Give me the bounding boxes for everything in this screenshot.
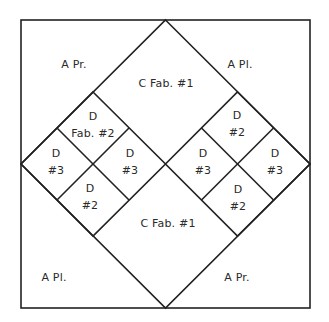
label-d-letter: D xyxy=(229,107,246,124)
label-d-letter: D xyxy=(267,145,284,162)
label-d-right-bottom: D #2 xyxy=(230,181,247,215)
label-d-letter: D xyxy=(230,181,247,198)
label-d-letter: D xyxy=(48,145,65,162)
label-d-right-left: D #3 xyxy=(195,145,212,179)
label-d-left-bottom: D #2 xyxy=(82,180,99,214)
label-a-top-right: A Pl. xyxy=(227,59,252,70)
label-d-letter: D xyxy=(122,145,139,162)
label-d-left-top: D Fab. #2 xyxy=(71,108,115,142)
label-d-code: #3 xyxy=(267,162,284,179)
label-d-code: #2 xyxy=(230,198,247,215)
label-d-left-right: D #3 xyxy=(122,145,139,179)
label-c-top: C Fab. #1 xyxy=(138,78,193,89)
label-d-code: #2 xyxy=(229,124,246,141)
label-a-bottom-left: A Pl. xyxy=(41,272,66,283)
label-a-bottom-right: A Pr. xyxy=(224,272,249,283)
label-d-right-right: D #3 xyxy=(267,145,284,179)
label-d-code: #3 xyxy=(48,162,65,179)
label-d-code: Fab. #2 xyxy=(71,125,115,142)
label-d-right-top: D #2 xyxy=(229,107,246,141)
label-a-top-left: A Pr. xyxy=(61,59,86,70)
label-d-letter: D xyxy=(82,180,99,197)
label-d-code: #3 xyxy=(122,162,139,179)
label-c-bottom: C Fab. #1 xyxy=(140,218,195,229)
label-d-code: #2 xyxy=(82,197,99,214)
label-d-letter: D xyxy=(195,145,212,162)
quilt-block-diagram: A Pr. A Pl. A Pl. A Pr. C Fab. #1 C Fab.… xyxy=(0,0,329,322)
label-d-code: #3 xyxy=(195,162,212,179)
label-d-letter: D xyxy=(71,108,115,125)
label-d-left-left: D #3 xyxy=(48,145,65,179)
